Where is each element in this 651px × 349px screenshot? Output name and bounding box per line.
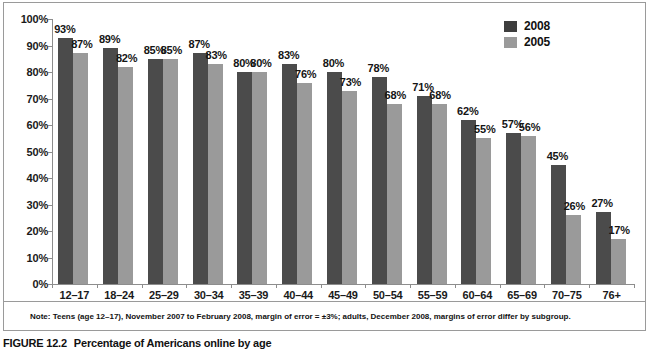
chart-note: Note: Teens (age 12–17), November 2007 t… [30,312,571,321]
bar-value-label: 55% [473,124,497,135]
y-axis-tick-label: 80% [6,67,48,78]
y-axis-tick-mark [48,72,52,73]
bar-value-label: 76% [294,69,318,80]
x-axis-label-45–49: 45–49 [321,290,366,301]
y-axis-tick-mark [48,178,52,179]
x-axis-tick-mark [231,284,232,288]
bar-group: 93%87% [58,19,88,284]
bar-value-label: 62% [456,106,480,117]
x-axis-label-70–75: 70–75 [544,290,589,301]
bar-2005-60–64 [476,138,491,284]
bar-group: 71%68% [417,19,447,284]
bar-value-label: 68% [428,90,452,101]
x-axis-tick-mark [142,284,143,288]
bar-2005-55–59 [432,104,447,284]
x-axis-label-40–44: 40–44 [276,290,321,301]
bar-2005-35–39 [252,72,267,284]
x-axis-tick-mark [410,284,411,288]
x-axis-label-76+: 76+ [589,290,634,301]
bar-group: 89%82% [103,19,133,284]
plot-area: 93%87%89%82%85%85%87%83%80%80%83%76%80%7… [52,19,634,284]
bar-2008-12–17 [58,38,73,284]
y-axis-ticks: 100%90%80%70%60%50%40%30%20%10%0% [4,3,48,303]
bar-value-label: 80% [322,58,346,69]
bar-2005-12–17 [73,53,88,284]
y-axis-tick-label: 0% [6,279,48,290]
y-axis-tick-mark [48,99,52,100]
x-axis-label-65–69: 65–69 [500,290,545,301]
bar-value-label: 93% [53,24,77,35]
bar-value-label: 85% [159,45,183,56]
legend-item-2005: 2005 [504,35,582,49]
bar-group: 85%85% [148,19,178,284]
bar-2005-25–29 [163,59,178,284]
figure-number: FIGURE 12.2 [3,337,67,349]
y-axis-tick-label: 70% [6,94,48,105]
y-axis-tick-label: 20% [6,226,48,237]
chart-legend: 2008 2005 [504,19,582,51]
chart-panel: 100%90%80%70%60%50%40%30%20%10%0% 93%87%… [3,2,646,331]
y-axis-tick-mark [48,152,52,153]
note-divider [4,301,645,302]
bar-group: 78%68% [372,19,402,284]
bar-value-label: 83% [204,50,228,61]
y-axis-tick-label: 10% [6,253,48,264]
x-axis-label-50–54: 50–54 [365,290,410,301]
bar-2005-50–54 [387,104,402,284]
y-axis-tick-mark [48,46,52,47]
x-axis-tick-mark [97,284,98,288]
y-axis-tick-mark [48,231,52,232]
y-axis-tick-mark [48,258,52,259]
bar-2008-60–64 [461,120,476,284]
y-axis-tick-mark [48,19,52,20]
y-axis-tick-mark [48,205,52,206]
x-axis-label-60–64: 60–64 [455,290,500,301]
bar-value-label: 80% [249,58,273,69]
bar-2008-70–75 [551,165,566,284]
bar-group: 80%80% [237,19,267,284]
bar-group: 62%55% [461,19,491,284]
x-axis-line [52,284,635,285]
x-axis-tick-mark [455,284,456,288]
legend-swatch-2008 [504,21,517,32]
x-axis-label-18–24: 18–24 [97,290,142,301]
x-axis-tick-mark [186,284,187,288]
bar-group: 83%76% [282,19,312,284]
bar-2005-18–24 [118,67,133,284]
bar-2008-18–24 [103,48,118,284]
y-axis-tick-mark [48,125,52,126]
bar-2008-50–54 [372,77,387,284]
x-axis-tick-mark [321,284,322,288]
x-axis-label-25–29: 25–29 [142,290,187,301]
x-axis-tick-mark [52,284,53,288]
bar-value-label: 87% [70,39,94,50]
figure-caption-text: Percentage of Americans online by age [74,337,272,349]
y-axis-tick-label: 30% [6,200,48,211]
y-axis-tick-label: 90% [6,41,48,52]
bar-group: 27%17% [596,19,626,284]
x-axis-tick-mark [589,284,590,288]
bar-group: 57%56% [506,19,536,284]
bar-2005-30–34 [208,64,223,284]
x-axis-label-12–17: 12–17 [52,290,97,301]
bar-2005-70–75 [566,215,581,284]
x-axis-label-55–59: 55–59 [410,290,455,301]
x-axis-tick-mark [500,284,501,288]
y-axis-tick-label: 40% [6,173,48,184]
bar-value-label: 82% [115,53,139,64]
legend-label-2008: 2008 [524,20,550,32]
y-axis-tick-label: 100% [6,14,48,25]
bar-2005-65–69 [521,136,536,284]
legend-item-2008: 2008 [504,19,582,33]
legend-swatch-2005 [504,37,517,48]
figure-caption: FIGURE 12.2Percentage of Americans onlin… [3,337,271,349]
bar-2008-55–59 [417,96,432,284]
bar-2008-40–44 [282,64,297,284]
figure-container: 100%90%80%70%60%50%40%30%20%10%0% 93%87%… [0,0,651,349]
bar-value-label: 89% [98,34,122,45]
bar-2008-25–29 [148,59,163,284]
bar-value-label: 73% [339,77,363,88]
legend-label-2005: 2005 [524,36,550,48]
bar-2005-45–49 [342,91,357,284]
bar-value-label: 45% [545,151,569,162]
